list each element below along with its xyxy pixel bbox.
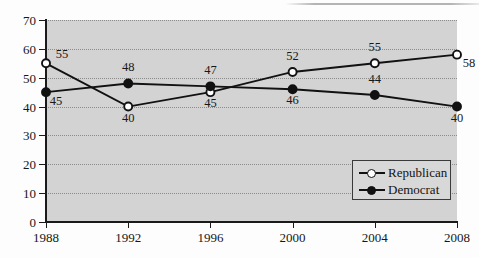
y-tick-label: 10 <box>8 187 36 200</box>
point-label-republican-1992: 40 <box>122 112 135 125</box>
legend-item-democrat[interactable]: Democrat <box>358 181 439 198</box>
point-label-republican-1996: 45 <box>204 97 217 110</box>
point-label-democrat-2008: 40 <box>451 112 464 125</box>
x-tick-label: 1988 <box>33 231 59 244</box>
y-tick-label: 60 <box>8 43 36 56</box>
x-axis-line <box>45 221 458 223</box>
filled-circle-marker-icon <box>358 183 386 197</box>
y-tick-label: 0 <box>8 216 36 229</box>
x-tick <box>457 222 458 228</box>
y-tick-label: 30 <box>8 129 36 142</box>
point-label-republican-2000: 52 <box>286 50 299 63</box>
x-tick <box>210 222 211 228</box>
y-tick <box>39 193 46 194</box>
point-label-democrat-1988: 45 <box>50 95 63 108</box>
chart-figure: 010203040506070 198819921996200020042008… <box>0 0 479 258</box>
y-tick-label: 50 <box>8 72 36 85</box>
x-tick <box>46 222 47 228</box>
point-label-republican-1988: 55 <box>56 48 69 61</box>
x-tick <box>128 222 129 228</box>
gridline <box>46 20 457 21</box>
y-tick <box>39 107 46 108</box>
gridline <box>46 135 457 136</box>
point-label-democrat-2000: 46 <box>286 94 299 107</box>
gridline <box>46 78 457 79</box>
y-tick <box>39 164 46 165</box>
point-label-republican-2004: 55 <box>369 41 382 54</box>
scan-artifact-line <box>285 3 479 5</box>
y-tick-label: 70 <box>8 14 36 27</box>
y-tick <box>39 78 46 79</box>
y-tick <box>39 49 46 50</box>
gridline <box>46 107 457 108</box>
legend-item-republican[interactable]: Republican <box>358 164 447 181</box>
point-label-democrat-1992: 48 <box>122 61 135 74</box>
chart-legend[interactable]: Republican Democrat <box>352 160 451 200</box>
legend-label-republican: Republican <box>388 166 447 179</box>
y-tick <box>39 222 46 223</box>
point-label-democrat-1996: 47 <box>204 64 217 77</box>
point-label-republican-2008: 58 <box>463 57 476 70</box>
y-tick-label: 40 <box>8 101 36 114</box>
x-tick-label: 1996 <box>197 231 223 244</box>
y-tick-label: 20 <box>8 158 36 171</box>
x-tick-label: 1992 <box>115 231 141 244</box>
open-circle-marker-icon <box>358 166 386 180</box>
x-tick-label: 2000 <box>280 231 306 244</box>
y-tick <box>39 20 46 21</box>
y-tick <box>39 135 46 136</box>
x-tick <box>375 222 376 228</box>
x-tick-label: 2008 <box>444 231 470 244</box>
legend-label-democrat: Democrat <box>388 183 439 196</box>
x-tick <box>293 222 294 228</box>
gridline <box>46 49 457 50</box>
point-label-democrat-2004: 44 <box>369 73 382 86</box>
x-tick-label: 2004 <box>362 231 388 244</box>
